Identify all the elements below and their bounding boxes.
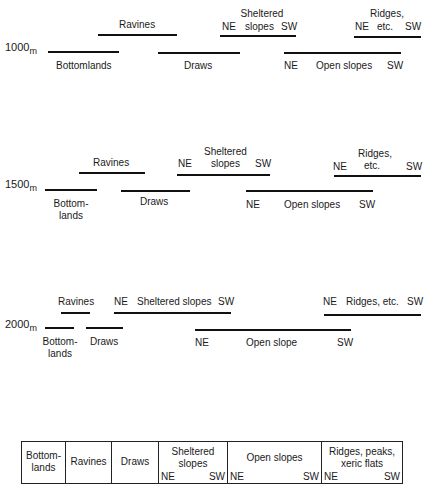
legend-row: Bottom- lands Ravines Draws Sheltered sl…: [22, 442, 403, 484]
sheltered-slopes-bar: [114, 312, 231, 314]
sheltered-slopes-label: Sheltered: [204, 146, 247, 158]
label-line: Open slopes: [228, 452, 321, 464]
legend-cell-ravines: Ravines: [66, 442, 112, 484]
ridges-sw-label: SW: [406, 161, 422, 173]
bottomlands-label: Bottom- lands: [36, 336, 84, 360]
bottomlands-bar: [45, 189, 97, 191]
open-slopes-label: Open slopes: [316, 60, 372, 72]
label-line: Bottom-: [44, 198, 98, 210]
elevation-unit: m: [29, 323, 37, 333]
label-line: Sheltered: [159, 446, 227, 458]
sheltered-ne-label: NE: [114, 296, 128, 308]
sheltered-sw-label: SW: [255, 158, 271, 170]
open-sw-label: SW: [337, 337, 353, 349]
label-line: Ravines: [66, 456, 111, 468]
ne-label: NE: [324, 471, 338, 483]
ridges-ne-label: NE: [355, 21, 369, 33]
elevation-label-2000: 2000m: [5, 318, 37, 334]
open-slopes-bar: [246, 190, 373, 192]
label-line: Bottom-: [36, 336, 84, 348]
sw-label: SW: [384, 471, 400, 483]
sheltered-slopes-bar: [220, 35, 296, 37]
ridges-label: Ridges, etc.: [346, 296, 399, 308]
bottomlands-label: Bottom- lands: [44, 198, 98, 222]
elevation-label-1500: 1500m: [5, 178, 37, 194]
label-line: Sheltered: [237, 8, 287, 20]
ridges-bar: [334, 175, 421, 177]
open-ne-label: NE: [246, 199, 260, 211]
ravines-bar: [61, 312, 90, 314]
ravines-label: Ravines: [93, 157, 129, 169]
bottomlands-label: Bottomlands: [56, 60, 112, 72]
legend-cell-sheltered-slopes: Sheltered slopes NE SW: [159, 442, 228, 484]
sheltered-ne-label: NE: [222, 21, 236, 33]
draws-label: Draws: [90, 336, 118, 348]
legend-cell-open-slopes: Open slopes NE SW: [228, 442, 322, 484]
sheltered-slopes-label-2: slopes: [245, 21, 274, 33]
ne-label: NE: [230, 471, 244, 483]
ridges-label: Ridges,: [370, 8, 404, 20]
legend-cell-ridges: Ridges, peaks, xeric flats NE SW: [322, 442, 403, 484]
label-line: slopes: [159, 458, 227, 470]
ravines-bar: [98, 34, 177, 36]
sw-label: SW: [303, 471, 319, 483]
elevation-unit: m: [29, 46, 37, 56]
sheltered-slopes-label: Sheltered: [237, 8, 287, 20]
bottomlands-bar: [45, 327, 74, 329]
sheltered-sw-label: SW: [218, 296, 234, 308]
draws-label: Draws: [140, 196, 168, 208]
ridges-label-2: etc.: [364, 160, 380, 172]
ridges-label-2: etc.: [377, 21, 393, 33]
sheltered-ne-label: NE: [178, 158, 192, 170]
ne-label: NE: [161, 471, 175, 483]
label-line: xeric flats: [322, 458, 402, 470]
open-slopes-label: Open slopes: [284, 199, 340, 211]
elevation-label-1000: 1000m: [5, 41, 37, 57]
label-line: Draws: [112, 456, 158, 468]
legend-cell-draws: Draws: [112, 442, 159, 484]
open-slope-label: Open slope: [246, 337, 297, 349]
ridges-sw-label: SW: [405, 21, 421, 33]
ravines-label: Ravines: [119, 19, 155, 31]
ridges-ne-label: NE: [323, 296, 337, 308]
open-ne-label: NE: [195, 337, 209, 349]
ridges-bar: [354, 36, 421, 38]
ridges-sw-label: SW: [407, 296, 423, 308]
open-sw-label: SW: [359, 199, 375, 211]
elevation-unit: m: [29, 183, 37, 193]
label-line: Bottom-: [22, 450, 65, 462]
position-legend-table: Bottom- lands Ravines Draws Sheltered sl…: [21, 441, 403, 484]
open-sw-label: SW: [387, 60, 403, 72]
legend-cell-bottomlands: Bottom- lands: [22, 442, 66, 484]
ravines-label: Ravines: [58, 296, 94, 308]
label-line: lands: [36, 348, 84, 360]
sw-label: SW: [209, 471, 225, 483]
draws-bar: [86, 327, 123, 329]
draws-bar: [158, 52, 240, 54]
ridges-ne-label: NE: [333, 161, 347, 173]
sheltered-slopes-label: Sheltered slopes: [137, 296, 212, 308]
elevation-value: 2000: [5, 318, 29, 330]
sheltered-slopes-label-2: slopes: [211, 158, 240, 170]
open-slopes-bar: [284, 52, 401, 54]
ridges-label: Ridges,: [358, 148, 392, 160]
bottomlands-bar: [48, 51, 119, 53]
elevation-value: 1500: [5, 178, 29, 190]
open-ne-label: NE: [284, 60, 298, 72]
ridges-bar: [324, 314, 421, 316]
sheltered-slopes-bar: [177, 174, 270, 176]
label-line: lands: [44, 210, 98, 222]
label-line: Ridges, peaks,: [322, 446, 402, 458]
draws-bar: [121, 190, 190, 192]
elevation-value: 1000: [5, 41, 29, 53]
label-line: lands: [22, 462, 65, 474]
open-slope-bar: [195, 329, 351, 331]
sheltered-sw-label: SW: [281, 21, 297, 33]
draws-label: Draws: [184, 60, 212, 72]
ravines-bar: [79, 172, 145, 174]
